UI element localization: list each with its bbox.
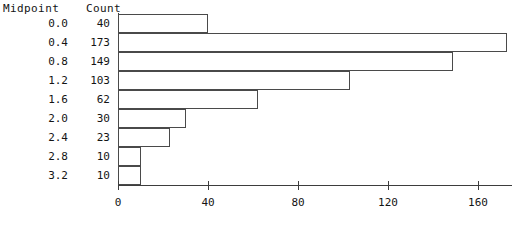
x-tick — [118, 181, 119, 190]
x-tick-label: 40 — [188, 196, 228, 209]
midpoint-value: 2.0 — [22, 109, 68, 128]
bar — [118, 90, 258, 109]
midpoint-value: 0.4 — [22, 33, 68, 52]
bar — [118, 14, 208, 33]
midpoint-value: 2.8 — [22, 147, 68, 166]
x-tick — [388, 181, 389, 190]
midpoint-value: 1.2 — [22, 71, 68, 90]
bar — [118, 128, 170, 147]
count-value: 173 — [70, 33, 110, 52]
bar — [118, 71, 350, 90]
count-value: 23 — [70, 128, 110, 147]
count-value: 30 — [70, 109, 110, 128]
midpoint-value: 3.2 — [22, 166, 68, 185]
histogram-chart: Midpoint Count 0.00.40.81.21.62.02.42.83… — [0, 0, 518, 228]
midpoint-value: 0.8 — [22, 52, 68, 71]
x-tick-label: 0 — [98, 196, 138, 209]
x-tick-label: 160 — [458, 196, 498, 209]
count-value: 10 — [70, 166, 110, 185]
bars-area — [118, 14, 512, 185]
midpoint-value: 2.4 — [22, 128, 68, 147]
x-tick-label: 120 — [368, 196, 408, 209]
midpoint-value: 0.0 — [22, 14, 68, 33]
bar — [118, 147, 141, 166]
x-axis-line — [118, 185, 512, 186]
bar — [118, 166, 141, 185]
midpoint-value: 1.6 — [22, 90, 68, 109]
bar — [118, 109, 186, 128]
count-value: 103 — [70, 71, 110, 90]
count-value: 149 — [70, 52, 110, 71]
count-value: 10 — [70, 147, 110, 166]
bar — [118, 52, 453, 71]
x-tick — [298, 181, 299, 190]
count-value: 62 — [70, 90, 110, 109]
count-value: 40 — [70, 14, 110, 33]
bar — [118, 33, 507, 52]
x-tick — [208, 181, 209, 190]
x-tick — [478, 181, 479, 190]
x-tick-label: 80 — [278, 196, 318, 209]
